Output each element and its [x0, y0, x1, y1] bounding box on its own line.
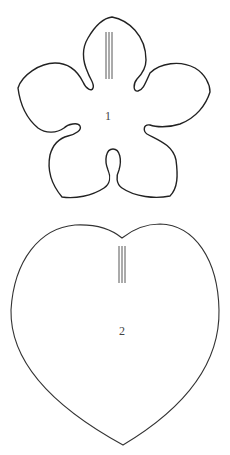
- grainline-icon: [106, 32, 112, 79]
- piece-label: 1: [105, 109, 111, 123]
- piece-label: 2: [119, 324, 125, 338]
- heart-outline: [11, 224, 219, 445]
- grainline-icon: [119, 246, 125, 283]
- flower-outline: [18, 17, 210, 198]
- piece-2-heart: 2: [11, 224, 219, 445]
- piece-1-flower: 1: [18, 17, 210, 198]
- pattern-diagram: 1 2: [0, 0, 230, 455]
